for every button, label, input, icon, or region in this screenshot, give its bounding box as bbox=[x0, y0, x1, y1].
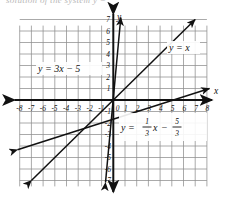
equation-label-3x-minus-5: y = 3x − 5 bbox=[36, 62, 102, 75]
equation-text-y-equals-x: y = x bbox=[168, 42, 190, 53]
y-tick--3: -3 bbox=[105, 130, 111, 139]
x-tick-4: 4 bbox=[159, 104, 163, 113]
y-tick--4: -4 bbox=[105, 142, 111, 151]
x-tick--7: -7 bbox=[28, 104, 34, 113]
x-tick-6: 6 bbox=[183, 104, 187, 113]
y-tick--7: -7 bbox=[105, 176, 111, 185]
y-tick-7: 7 bbox=[106, 15, 110, 24]
x-tick--3: -3 bbox=[75, 104, 81, 113]
equation-lead-y-equals: y = bbox=[120, 122, 135, 133]
y-axis-label: y bbox=[116, 12, 122, 22]
y-tick-5: 5 bbox=[106, 38, 110, 47]
equation-minus-sign: − bbox=[161, 122, 168, 133]
y-tick-1: 1 bbox=[107, 84, 111, 93]
equation-text-3x-minus-5: y = 3x − 5 bbox=[37, 63, 80, 74]
x-tick-7: 7 bbox=[194, 104, 198, 113]
x-tick--2: -2 bbox=[87, 104, 93, 113]
equation-label-one-third-x: y = 1 3 x − 5 3 bbox=[119, 113, 207, 141]
x-axis-label: x bbox=[213, 86, 219, 96]
y-tick--6: -6 bbox=[105, 165, 111, 174]
y-tick--1: -1 bbox=[105, 107, 111, 116]
x-tick-0: 0 bbox=[116, 104, 120, 113]
fraction-2-numerator: 5 bbox=[175, 117, 179, 126]
x-tick-1: 1 bbox=[124, 104, 128, 113]
y-tick-3: 3 bbox=[105, 61, 110, 70]
fraction-2-denominator: 3 bbox=[174, 129, 179, 138]
x-tick-2: 2 bbox=[136, 104, 140, 113]
coordinate-plane-svg: x y -8 -7 -6 -5 -4 -3 -2 -1 0 1 2 3 4 5 … bbox=[0, 0, 227, 198]
y-tick-6: 6 bbox=[106, 27, 110, 36]
y-tick-4: 4 bbox=[106, 50, 110, 59]
x-tick--4: -4 bbox=[63, 104, 69, 113]
graph-figure: solution of the system y = bbox=[0, 0, 227, 198]
x-tick--1: -1 bbox=[98, 104, 104, 113]
x-tick--5: -5 bbox=[51, 104, 57, 113]
fraction-1-numerator: 1 bbox=[145, 117, 149, 126]
x-tick-8: 8 bbox=[206, 104, 210, 113]
y-tick--5: -5 bbox=[105, 153, 111, 162]
x-tick--8: -8 bbox=[16, 104, 22, 113]
x-tick-3: 3 bbox=[146, 104, 151, 113]
y-tick--2: -2 bbox=[105, 119, 111, 128]
equation-variable-x: x bbox=[152, 122, 158, 133]
fraction-1-denominator: 3 bbox=[144, 129, 149, 138]
y-tick-2: 2 bbox=[106, 73, 110, 82]
x-tick-5: 5 bbox=[171, 104, 175, 113]
x-tick--6: -6 bbox=[40, 104, 46, 113]
equation-label-y-equals-x: y = x bbox=[167, 41, 200, 54]
